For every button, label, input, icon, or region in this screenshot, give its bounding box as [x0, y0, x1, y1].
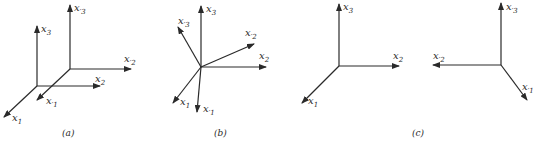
label-x3: x3 — [41, 23, 52, 37]
label-x3: x3 — [343, 1, 354, 15]
label-x2: x2 — [259, 50, 270, 64]
axis-x1-prime — [37, 69, 70, 100]
caption-a: (a) — [62, 128, 75, 138]
label-x3-prime: x′3 — [74, 2, 86, 16]
label-x1: x1 — [180, 96, 190, 110]
coordinate-transform-diagram: x3 x2 x1 x′3 x′2 x′1 (a) x3 x2 x1 x′3 x′… — [0, 0, 533, 145]
label-x2-prime: x′2 — [124, 53, 136, 67]
panel-b: x3 x2 x1 x′3 x′2 x′1 (b) — [173, 3, 270, 138]
label-x3: x3 — [206, 3, 217, 17]
label-x1: x1 — [12, 112, 22, 126]
label-x1-prime: x′1 — [46, 95, 58, 109]
caption-c: (c) — [412, 128, 425, 138]
label-x1: x1 — [308, 95, 318, 109]
label-x3-prime: x′3 — [178, 15, 190, 29]
label-x2: x2 — [393, 50, 404, 64]
axis-x1 — [4, 86, 37, 117]
label-x2: x2 — [95, 73, 106, 87]
axis-x3-prime — [178, 27, 201, 67]
axis-x1 — [173, 67, 201, 103]
label-x1-prime: x′1 — [522, 81, 533, 95]
label-x1-prime: x′1 — [203, 103, 215, 117]
label-x3-prime: x′3 — [506, 1, 518, 15]
label-x2-prime: x′2 — [433, 50, 445, 64]
axis-x1-prime — [197, 67, 201, 112]
panel-a: x3 x2 x1 x′3 x′2 x′1 (a) — [4, 2, 136, 138]
axis-x2-prime — [201, 44, 254, 67]
label-x2-prime: x′2 — [245, 27, 257, 41]
caption-b: (b) — [214, 128, 227, 138]
panel-c: x3 x2 x1 x′3 x′2 x′1 (c) — [302, 1, 533, 138]
